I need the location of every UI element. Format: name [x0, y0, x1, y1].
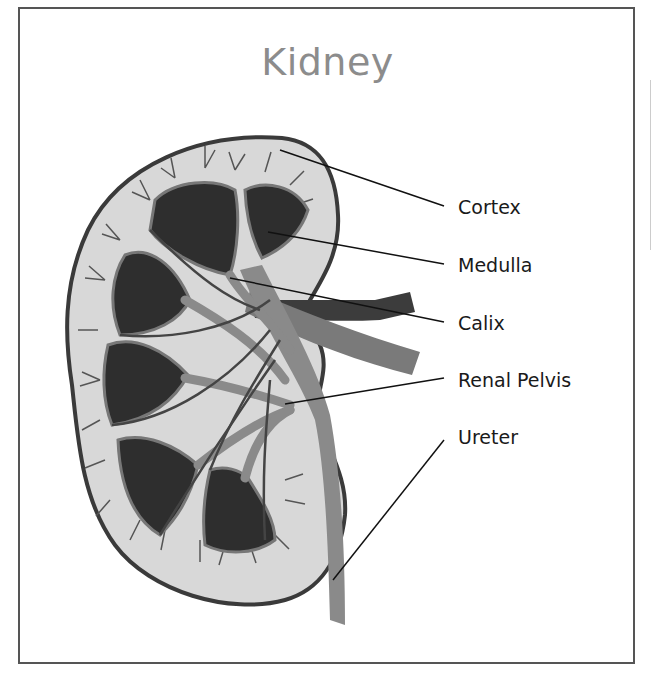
label-renal-pelvis: Renal Pelvis: [458, 369, 571, 391]
kidney-illustration: [0, 0, 655, 686]
label-medulla: Medulla: [458, 254, 532, 276]
label-calix: Calix: [458, 312, 505, 334]
label-ureter: Ureter: [458, 426, 518, 448]
label-cortex: Cortex: [458, 196, 521, 218]
